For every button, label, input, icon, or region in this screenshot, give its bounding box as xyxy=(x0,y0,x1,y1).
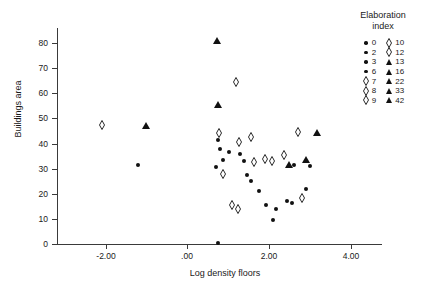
data-point-circle xyxy=(221,158,225,162)
data-point-diamond xyxy=(216,128,221,137)
data-point-triangle xyxy=(214,101,222,108)
open-diamond-icon xyxy=(385,38,393,47)
legend-item[interactable]: 8 xyxy=(362,86,376,96)
legend-item[interactable]: 6 xyxy=(362,67,376,77)
x-tick xyxy=(351,244,352,249)
data-point-circle xyxy=(242,159,246,163)
data-point-circle xyxy=(290,201,294,205)
data-point-diamond xyxy=(299,193,304,202)
legend-item-label: 6 xyxy=(372,67,376,76)
open-diamond-icon xyxy=(362,77,370,86)
data-point-diamond xyxy=(251,157,256,166)
data-point-circle xyxy=(136,163,140,167)
legend-item[interactable]: 10 xyxy=(385,38,404,48)
data-point-triangle xyxy=(302,156,310,163)
legend: Elaboration index 023678910121316223342 xyxy=(336,10,430,105)
y-tick-label: 80 xyxy=(16,39,48,48)
data-point-triangle xyxy=(142,122,150,129)
legend-item-label: 9 xyxy=(372,96,376,105)
data-point-diamond xyxy=(295,127,300,136)
data-point-diamond xyxy=(235,204,240,213)
data-point-diamond xyxy=(233,77,238,86)
legend-item-label: 0 xyxy=(372,38,376,47)
data-point-triangle xyxy=(285,161,293,168)
legend-item[interactable]: 3 xyxy=(362,57,376,67)
data-point-diamond xyxy=(248,132,253,141)
data-point-diamond xyxy=(236,137,241,146)
legend-title-line2: index xyxy=(336,21,430,32)
data-point-diamond xyxy=(262,154,267,163)
y-axis-label: Buildings area xyxy=(13,54,23,164)
x-tick xyxy=(106,244,107,249)
legend-item-label: 2 xyxy=(372,48,376,57)
legend-item[interactable]: 12 xyxy=(385,48,404,58)
y-tick-label: 10 xyxy=(16,215,48,224)
legend-item-label: 22 xyxy=(395,77,404,86)
filled-circle-icon xyxy=(362,48,370,57)
data-point-circle xyxy=(308,164,312,168)
legend-column-1: 0236789 xyxy=(362,38,376,105)
legend-item-label: 7 xyxy=(372,77,376,86)
legend-item[interactable]: 9 xyxy=(362,96,376,106)
legend-column-2: 10121316223342 xyxy=(385,38,404,105)
data-point-diamond xyxy=(281,150,286,159)
legend-item-label: 33 xyxy=(395,86,404,95)
legend-item-label: 12 xyxy=(395,48,404,57)
legend-item-label: 10 xyxy=(395,38,404,47)
filled-triangle-icon xyxy=(385,67,393,76)
data-point-diamond xyxy=(229,200,234,209)
filled-circle-icon xyxy=(362,67,370,76)
filled-circle-icon xyxy=(362,57,370,66)
data-point-circle xyxy=(218,147,222,151)
x-tick-label: .00 xyxy=(165,252,209,261)
x-tick-label: -2.00 xyxy=(84,252,128,261)
legend-item-label: 13 xyxy=(395,57,404,66)
y-tick-label: 0 xyxy=(16,240,48,249)
data-point-circle xyxy=(216,241,220,245)
legend-item-label: 8 xyxy=(372,86,376,95)
x-axis-label: Log density floors xyxy=(135,268,315,278)
legend-title: Elaboration index xyxy=(336,10,430,32)
data-point-triangle xyxy=(213,37,221,44)
filled-triangle-icon xyxy=(385,57,393,66)
data-point-circle xyxy=(245,173,249,177)
y-tick xyxy=(52,244,57,245)
legend-item[interactable]: 2 xyxy=(362,48,376,58)
data-point-diamond xyxy=(269,156,274,165)
legend-item[interactable]: 13 xyxy=(385,57,404,67)
x-tick-label: 4.00 xyxy=(329,252,373,261)
x-tick xyxy=(187,244,188,249)
scatter-plot-figure: 01020304050607080 -2.00.002.004.00 Build… xyxy=(0,0,432,290)
legend-item-label: 42 xyxy=(395,96,404,105)
x-tick xyxy=(269,244,270,249)
data-point-circle xyxy=(304,187,308,191)
open-diamond-icon xyxy=(362,96,370,105)
legend-item[interactable]: 42 xyxy=(385,96,404,106)
filled-triangle-icon xyxy=(385,77,393,86)
legend-item[interactable]: 22 xyxy=(385,76,404,86)
filled-triangle-icon xyxy=(385,96,393,105)
data-point-diamond xyxy=(220,169,225,178)
legend-item-label: 16 xyxy=(395,67,404,76)
open-diamond-icon xyxy=(385,48,393,57)
y-tick-label: 30 xyxy=(16,165,48,174)
legend-item[interactable]: 16 xyxy=(385,67,404,77)
x-tick-label: 2.00 xyxy=(247,252,291,261)
legend-item[interactable]: 0 xyxy=(362,38,376,48)
data-point-circle xyxy=(285,199,289,203)
data-point-diamond xyxy=(99,120,104,129)
legend-item[interactable]: 7 xyxy=(362,76,376,86)
legend-columns: 023678910121316223342 xyxy=(336,38,430,105)
data-point-triangle xyxy=(313,129,321,136)
filled-circle-icon xyxy=(362,38,370,47)
y-tick-label: 20 xyxy=(16,190,48,199)
legend-item[interactable]: 33 xyxy=(385,86,404,96)
filled-triangle-icon xyxy=(385,86,393,95)
legend-item-label: 3 xyxy=(372,57,376,66)
legend-title-line1: Elaboration xyxy=(336,10,430,21)
open-diamond-icon xyxy=(362,86,370,95)
